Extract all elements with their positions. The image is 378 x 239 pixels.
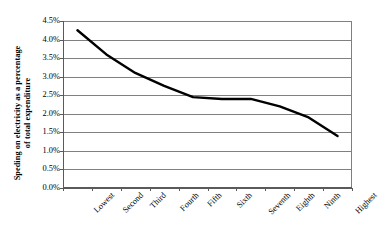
y-axis-tick-label: 2.0% — [30, 109, 60, 118]
x-axis-category-label: Eighth — [293, 190, 316, 213]
x-axis-category-labels: LowestSecondThirdFourthFifthSixthSeventh… — [0, 190, 366, 239]
y-axis-tick-label: 4.0% — [30, 35, 60, 44]
y-axis-tick-label: 3.0% — [30, 72, 60, 81]
x-axis-category-label: Third — [148, 190, 168, 210]
x-axis-category-label: Highest — [352, 190, 378, 216]
x-axis-category-label: Ninth — [321, 190, 342, 211]
x-axis-category-label: Second — [121, 190, 146, 215]
data-series-line — [63, 21, 352, 188]
y-axis-tick-label: 2.5% — [30, 90, 60, 99]
series-polyline — [77, 30, 337, 136]
y-axis-tick-label: 4.5% — [30, 16, 60, 25]
x-axis-category-label: Lowest — [92, 190, 117, 215]
y-axis-title-line-1: Speding on electricity as a percentage — [13, 46, 23, 181]
y-axis-tick-label: 0.5% — [30, 164, 60, 173]
plot-area — [63, 21, 352, 188]
y-axis-tick-label: 3.5% — [30, 53, 60, 62]
y-axis-tick-label: 1.0% — [30, 146, 60, 155]
x-axis-category-label: Sixth — [234, 190, 254, 210]
y-axis-tick-label: 1.5% — [30, 127, 60, 136]
x-axis-category-label: Fifth — [205, 190, 224, 209]
x-axis-category-label: Fourth — [178, 190, 201, 213]
x-axis-category-label: Seventh — [266, 190, 292, 216]
